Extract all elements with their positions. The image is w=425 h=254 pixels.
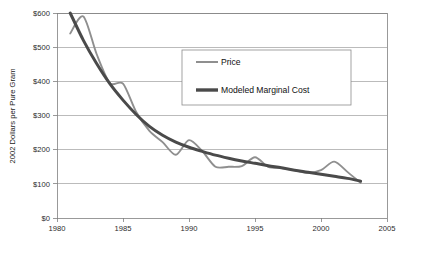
legend-background	[182, 50, 351, 105]
y-tick-label: $600	[33, 9, 50, 18]
y-tick-label: $0	[42, 214, 50, 223]
x-tick-label: 1990	[181, 224, 198, 233]
line-chart: $0$100$200$300$400$500$600 1980198519901…	[0, 0, 425, 254]
legend-label-price: Price	[221, 57, 241, 67]
chart-legend: PriceModeled Marginal Cost	[182, 50, 351, 105]
x-tick-label: 1995	[247, 224, 264, 233]
y-tick-label: $200	[33, 145, 50, 154]
x-tick-label: 2005	[379, 224, 396, 233]
y-tick-label: $100	[33, 180, 50, 189]
y-tick-label: $300	[33, 111, 50, 120]
x-axis-tick-labels: 198019851990199520002005	[49, 224, 396, 233]
y-tick-label: $400	[33, 77, 50, 86]
legend-label-modeled-marginal-cost: Modeled Marginal Cost	[221, 85, 310, 95]
x-tick-label: 2000	[313, 224, 330, 233]
x-tick-label: 1985	[115, 224, 132, 233]
chart-container: $0$100$200$300$400$500$600 1980198519901…	[0, 0, 425, 254]
y-axis-ticks	[53, 13, 57, 218]
y-axis-tick-labels: $0$100$200$300$400$500$600	[33, 9, 50, 223]
x-tick-label: 1980	[49, 224, 66, 233]
y-tick-label: $500	[33, 43, 50, 52]
y-axis-title: 2002 Dollars per Pure Gram	[8, 69, 17, 164]
x-axis-ticks	[57, 218, 387, 222]
